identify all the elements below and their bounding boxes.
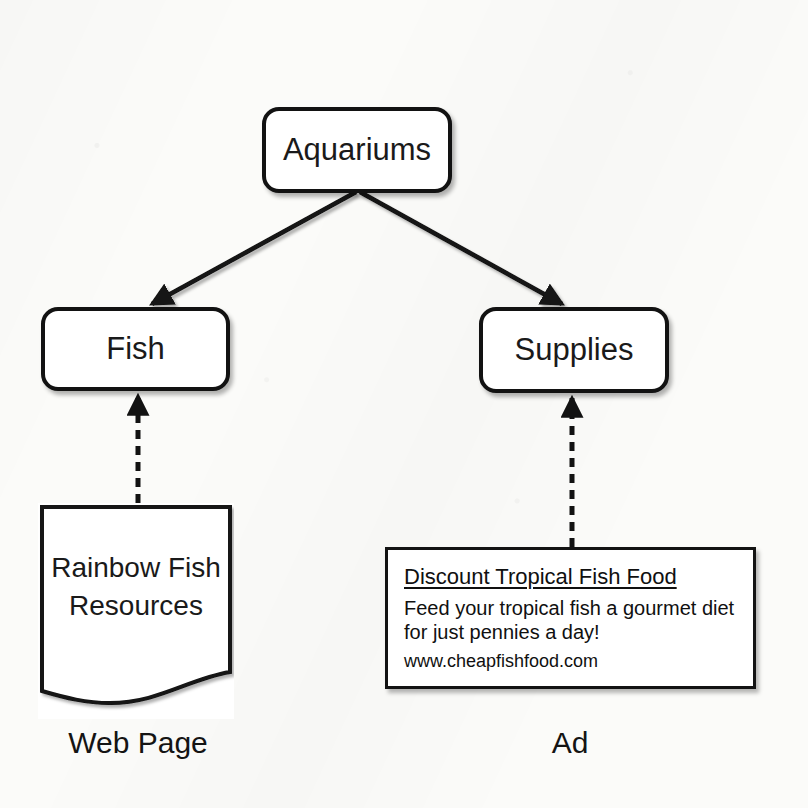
node-aquariums[interactable]: Aquariums [262, 107, 452, 193]
ad-url[interactable]: www.cheapfishfood.com [404, 651, 737, 672]
node-web-page-document[interactable]: Rainbow Fish Resources [38, 503, 234, 719]
node-supplies-label: Supplies [515, 332, 634, 368]
ad-body-line-2: for just pennies a day! [404, 620, 737, 644]
node-web-page-text: Rainbow Fish Resources [38, 549, 234, 625]
edge-aquariums-to-fish [152, 192, 356, 304]
node-web-page-line1: Rainbow Fish [38, 549, 234, 587]
diagram-canvas: Aquariums Fish Supplies Rainbow Fish Res… [0, 0, 808, 808]
caption-web-page: Web Page [18, 726, 258, 760]
node-ad-box[interactable]: Discount Tropical Fish Food Feed your tr… [385, 547, 756, 689]
edge-aquariums-to-supplies [360, 192, 562, 304]
node-fish[interactable]: Fish [41, 307, 230, 391]
node-fish-label: Fish [106, 331, 165, 367]
ad-headline[interactable]: Discount Tropical Fish Food [404, 564, 737, 590]
ad-body-line-1: Feed your tropical fish a gourmet diet [404, 596, 737, 620]
caption-ad: Ad [500, 726, 640, 760]
node-supplies[interactable]: Supplies [479, 307, 669, 393]
node-aquariums-label: Aquariums [283, 132, 431, 168]
node-web-page-line2: Resources [38, 587, 234, 625]
